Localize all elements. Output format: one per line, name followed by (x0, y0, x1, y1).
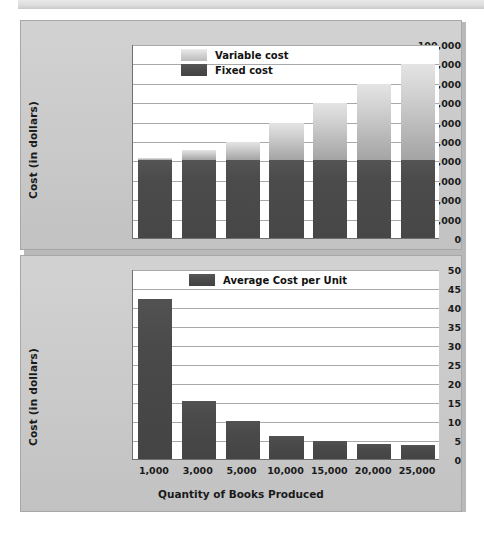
bar[interactable] (226, 142, 260, 238)
bar[interactable] (138, 299, 172, 459)
bar[interactable] (269, 436, 303, 459)
bar[interactable] (313, 103, 347, 238)
page-top-strip (18, 0, 484, 9)
bar-segment-variable-cost (401, 64, 435, 160)
total-cost-chart-panel: Cost (in dollars) 010,00020,00030,00040,… (20, 20, 462, 250)
bar[interactable] (401, 445, 435, 459)
total-cost-y-axis-label: Cost (in dollars) (27, 69, 39, 199)
legend-item-variable-cost[interactable]: Variable cost (181, 49, 288, 61)
bar-segment-average-cost (269, 436, 303, 459)
bar-segment-fixed-cost (401, 160, 435, 238)
bar[interactable] (401, 64, 435, 238)
bar-segment-average-cost (401, 445, 435, 459)
bar[interactable] (182, 401, 216, 459)
legend-swatch-average-cost (189, 274, 215, 286)
average-cost-x-axis-label: Quantity of Books Produced (21, 488, 461, 500)
x-tick-label: 15,000 (311, 465, 348, 476)
bar-segment-fixed-cost (138, 160, 172, 238)
bar[interactable] (138, 158, 172, 239)
legend-label-fixed-cost: Fixed cost (215, 65, 273, 76)
gridline (133, 346, 439, 347)
bar-segment-average-cost (182, 401, 216, 459)
bar-segment-variable-cost (182, 150, 216, 161)
gridline (133, 384, 439, 385)
total-cost-legend: Variable cost Fixed cost (181, 49, 288, 76)
legend-label-variable-cost: Variable cost (215, 50, 288, 61)
bar-segment-fixed-cost (226, 160, 260, 238)
bar[interactable] (313, 441, 347, 459)
legend-swatch-variable-cost (181, 49, 207, 61)
legend-item-average-cost[interactable]: Average Cost per Unit (189, 274, 347, 286)
average-cost-y-axis-label: Cost (in dollars) (27, 316, 39, 446)
average-cost-legend: Average Cost per Unit (189, 274, 347, 286)
bar-segment-average-cost (138, 299, 172, 459)
bar-segment-average-cost (226, 421, 260, 459)
x-tick-label: 20,000 (355, 465, 392, 476)
bar-segment-fixed-cost (357, 160, 391, 238)
gridline (133, 84, 439, 85)
average-cost-chart-panel: Cost (in dollars) 05101520253035404550 1… (20, 255, 462, 512)
average-cost-plot-area (132, 270, 439, 460)
bar[interactable] (357, 84, 391, 238)
bar-segment-fixed-cost (313, 160, 347, 238)
gridline (133, 327, 439, 328)
x-tick-label: 25,000 (399, 465, 436, 476)
bar-segment-variable-cost (226, 142, 260, 160)
legend-label-average-cost: Average Cost per Unit (223, 275, 347, 286)
gridline (133, 103, 439, 104)
bar-segment-variable-cost (269, 123, 303, 161)
gridline (133, 308, 439, 309)
bar-segment-variable-cost (313, 103, 347, 160)
gridline (133, 365, 439, 366)
gridline (133, 403, 439, 404)
bar-segment-fixed-cost (269, 160, 303, 238)
bar-segment-average-cost (357, 444, 391, 459)
gridline (133, 422, 439, 423)
gridline (133, 270, 439, 271)
bar-segment-average-cost (313, 441, 347, 459)
bar[interactable] (182, 150, 216, 238)
bar[interactable] (226, 421, 260, 459)
gridline (133, 289, 439, 290)
x-tick-label: 5,000 (227, 465, 257, 476)
x-tick-label: 10,000 (267, 465, 304, 476)
legend-item-fixed-cost[interactable]: Fixed cost (181, 64, 288, 76)
gridline (133, 45, 439, 46)
x-tick-label: 3,000 (183, 465, 213, 476)
bar[interactable] (269, 123, 303, 238)
bar[interactable] (357, 444, 391, 459)
legend-swatch-fixed-cost (181, 64, 207, 76)
x-tick-label: 1,000 (139, 465, 169, 476)
bar-segment-fixed-cost (182, 160, 216, 238)
bar-segment-variable-cost (357, 84, 391, 161)
